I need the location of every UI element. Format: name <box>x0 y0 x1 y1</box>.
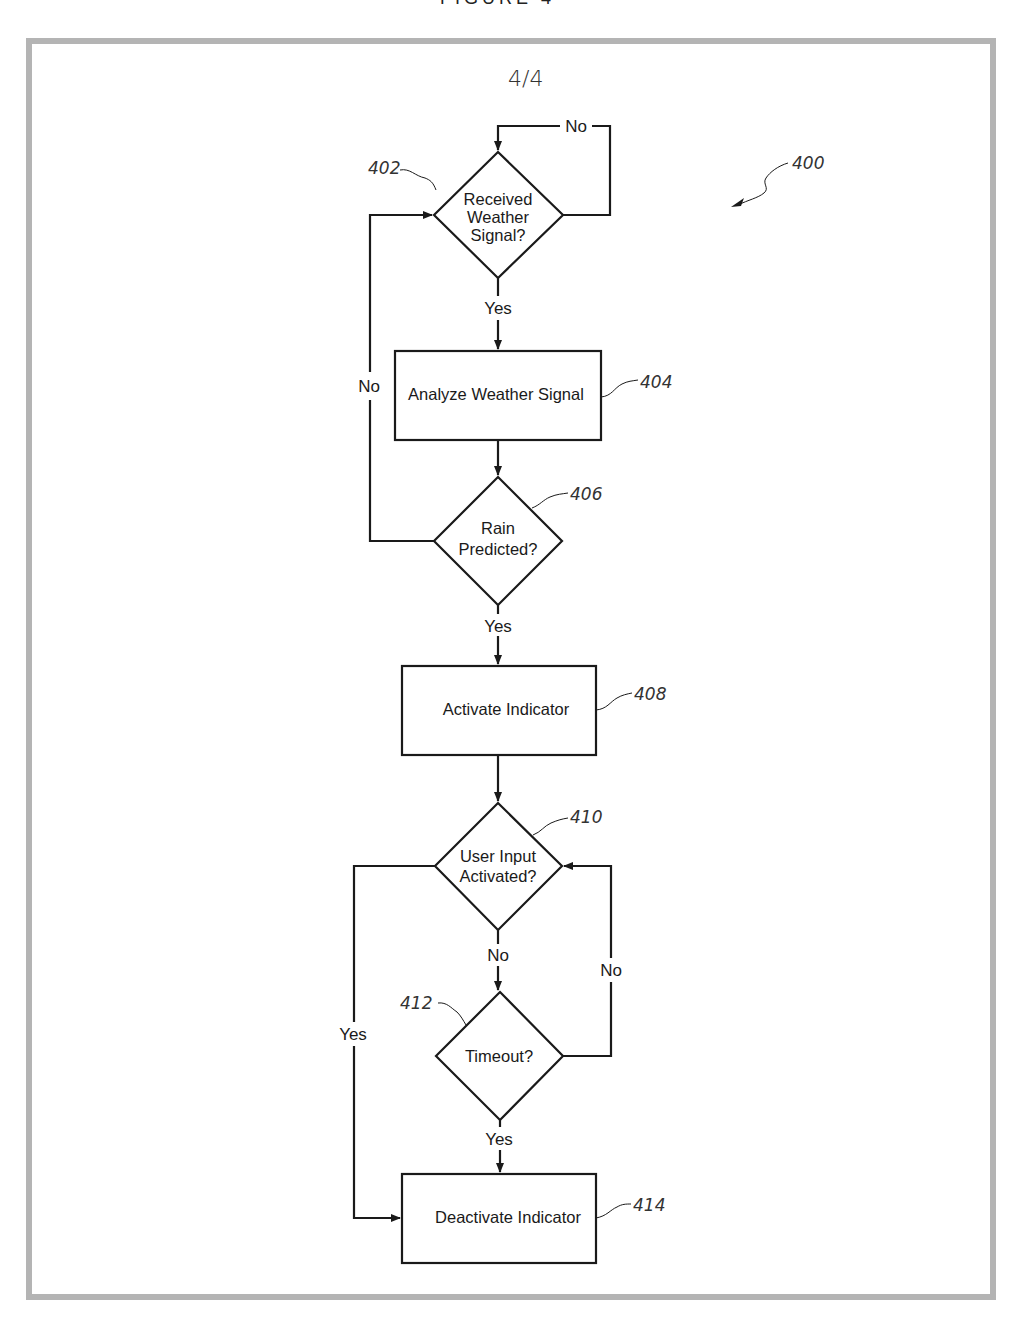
decision-402-line2: Weather <box>467 208 530 226</box>
decision-402-line1: Received <box>464 190 533 208</box>
ref-408: 408 <box>634 684 667 704</box>
leader-408 <box>596 693 632 710</box>
edge-406-no-label: No <box>358 377 380 396</box>
ref-404: 404 <box>640 372 672 392</box>
leader-414 <box>596 1204 631 1218</box>
leader-402 <box>400 170 436 190</box>
decision-410-line2: Activated? <box>459 867 536 885</box>
edge-412-yes-label: Yes <box>485 1130 513 1149</box>
process-414-label: Deactivate Indicator <box>435 1208 581 1226</box>
decision-412-label: Timeout? <box>465 1047 533 1065</box>
edge-410-yes-label: Yes <box>339 1025 367 1044</box>
decision-406-line2: Predicted? <box>459 540 538 558</box>
edge-410-no-label: No <box>487 946 509 965</box>
edge-402-yes-label: Yes <box>484 299 512 318</box>
ref-400: 400 <box>792 153 824 173</box>
edge-406-yes-label: Yes <box>484 617 512 636</box>
leader-410 <box>533 818 568 835</box>
leader-412 <box>438 1003 466 1025</box>
ref-412: 412 <box>400 993 432 1013</box>
arrowhead-400-icon <box>731 198 744 207</box>
decision-402-line3: Signal? <box>470 226 525 244</box>
leader-406 <box>532 493 568 508</box>
leader-404 <box>601 380 638 397</box>
process-408-label: Activate Indicator <box>443 700 570 718</box>
decision-410-line1: User Input <box>460 847 537 865</box>
edge-412-no-label: No <box>600 961 622 980</box>
edge-402-no-label: No <box>565 117 587 136</box>
ref-406: 406 <box>570 484 603 504</box>
flowchart: Received Weather Signal? Analyze Weather… <box>0 0 1015 1323</box>
process-404-label: Analyze Weather Signal <box>408 385 584 403</box>
decision-406-line1: Rain <box>481 519 515 537</box>
ref-414: 414 <box>633 1195 665 1215</box>
ref-402: 402 <box>368 158 400 178</box>
ref-410: 410 <box>570 807 602 827</box>
leader-400 <box>738 163 788 205</box>
